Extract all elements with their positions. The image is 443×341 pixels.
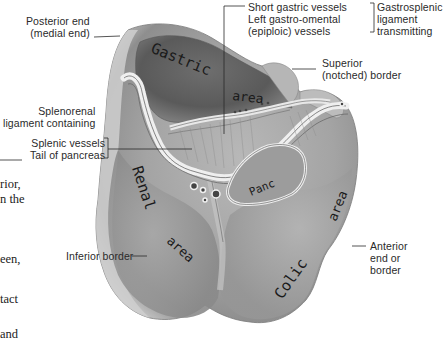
- body-text-fragment: and: [0, 327, 18, 341]
- posterior-end-label: Posterior end (medial end): [26, 15, 90, 39]
- body-text-fragment: een,: [0, 252, 20, 266]
- superior-border-label: Superior (notched) border: [322, 57, 401, 81]
- anterior-end-label: Anterior end or border: [370, 240, 408, 276]
- inferior-border-label: Inferior border: [66, 250, 133, 262]
- body-text-fragment: n the: [0, 192, 25, 206]
- splenic-vessels-label: Splenic vessels Tail of pancreas: [30, 137, 105, 161]
- short-gastric-vessels-label: Short gastric vessels Left gastro-omenta…: [248, 1, 347, 37]
- gastrosplenic-ligament-label: Gastrosplenic ligament transmitting: [377, 1, 443, 37]
- splenorenal-ligament-label: Splenorenal ligament containing: [3, 105, 95, 129]
- body-text-fragment: rior,: [0, 177, 21, 191]
- body-text-fragment: tact: [0, 292, 18, 306]
